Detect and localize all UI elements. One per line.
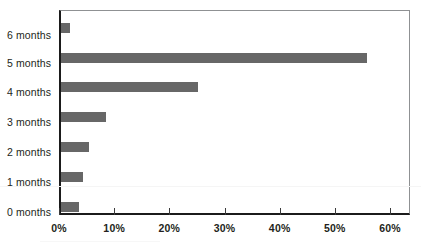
x-tick-label-20: 20% xyxy=(139,222,199,234)
bar-chart: 6 months 5 months 4 months 3 months 2 mo… xyxy=(0,0,421,247)
x-tick-mark-0 xyxy=(59,208,60,215)
x-tick-mark-40 xyxy=(280,208,281,215)
x-tick-mark-60 xyxy=(390,208,391,215)
x-tick-mark-30 xyxy=(225,208,226,215)
x-tick-mark-50 xyxy=(335,208,336,215)
x-tick-label-40: 40% xyxy=(250,222,310,234)
x-tick-mark-10 xyxy=(114,208,115,215)
x-tick-label-60: 60% xyxy=(360,222,420,234)
x-tick-label-50: 50% xyxy=(305,222,365,234)
x-axis: 0% 10% 20% 30% 40% 50% 60% xyxy=(0,0,421,247)
x-tick-label-30: 30% xyxy=(195,222,255,234)
x-tick-label-0: 0% xyxy=(29,222,89,234)
x-tick-label-10: 10% xyxy=(84,222,144,234)
x-tick-mark-20 xyxy=(169,208,170,215)
